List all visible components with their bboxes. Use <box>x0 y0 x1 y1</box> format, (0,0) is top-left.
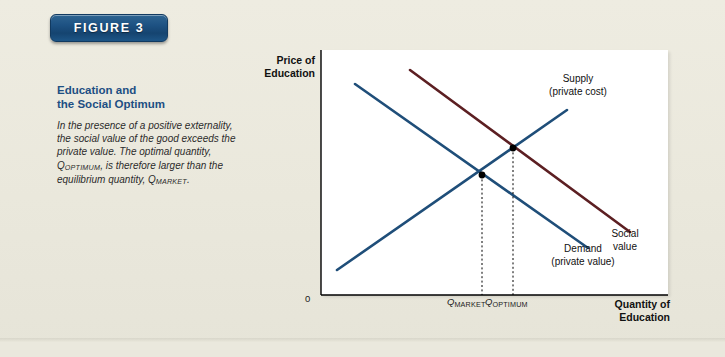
demand-label-line2: (private value) <box>551 256 614 267</box>
market-equilibrium-point <box>479 172 486 179</box>
page-bottom-margin <box>0 342 725 357</box>
social-optimum-point <box>510 145 517 152</box>
origin-label: 0 <box>305 293 310 304</box>
y-axis-title-line1: Price of <box>276 54 315 66</box>
qmarket-subscript: MARKET <box>454 300 485 309</box>
demand-curve <box>355 84 588 248</box>
x-tick-label-qmarket: QMARKET <box>447 296 486 307</box>
y-axis-title-line2: Education <box>264 67 315 79</box>
supply-curve-label: Supply (private cost) <box>530 73 626 98</box>
x-axis-title: Quantity of Education <box>560 298 670 323</box>
social-label-line1: Social <box>611 228 638 239</box>
y-axis-title: Price of Education <box>200 54 315 79</box>
figure-page: FIGURE 3 Education and the Social Optimu… <box>0 0 725 357</box>
x-axis-title-line2: Education <box>619 311 670 323</box>
x-tick-label-qoptimum: QOPTIMUM <box>485 296 528 307</box>
supply-curve <box>337 110 567 270</box>
supply-label-line1: Supply <box>563 73 594 84</box>
supply-label-line2: (private cost) <box>549 86 607 97</box>
social-label-line2: value <box>613 241 637 252</box>
x-axis-title-line1: Quantity of <box>615 298 670 310</box>
qoptimum-subscript: OPTIMUM <box>492 300 527 309</box>
social-value-curve-label: Social value <box>595 228 655 253</box>
